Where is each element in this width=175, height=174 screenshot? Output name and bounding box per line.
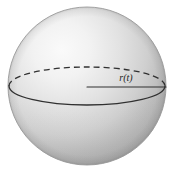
sphere-diagram-svg: r(t) — [0, 0, 175, 174]
sphere-lower-shade — [0, 86, 175, 174]
radius-label: r(t) — [119, 72, 133, 84]
figure-container: r(t) — [0, 0, 175, 174]
